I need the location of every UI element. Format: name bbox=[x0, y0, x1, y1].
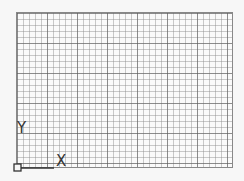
drawing-grid[interactable] bbox=[16, 12, 233, 168]
ucs-y-axis-label: Y bbox=[17, 121, 26, 136]
drawing-viewport[interactable]: Y X bbox=[0, 0, 244, 181]
ucs-x-axis-label: X bbox=[56, 154, 66, 169]
